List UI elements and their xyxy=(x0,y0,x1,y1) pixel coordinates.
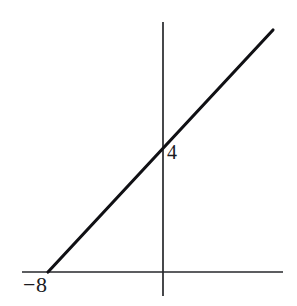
linear-function-line xyxy=(48,30,273,272)
graph-figure: −8 4 xyxy=(0,0,297,306)
x-intercept-label: −8 xyxy=(23,274,47,296)
y-intercept-label: 4 xyxy=(167,142,177,162)
coordinate-plot xyxy=(0,0,297,306)
